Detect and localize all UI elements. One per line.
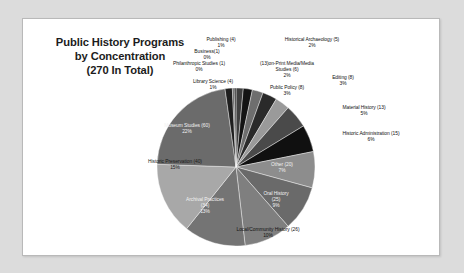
label-historic-administration-pct: 6% bbox=[319, 137, 423, 143]
label-philanthropic-studies: Philanthropic Studies (1) 0% bbox=[151, 61, 247, 73]
label-museum-studies: Museum Studies (60) 22% bbox=[145, 123, 229, 135]
label-editing: Editing (8) 3% bbox=[319, 75, 367, 87]
label-oral-history: Oral History (25) 9% bbox=[252, 191, 300, 210]
label-archival-practices-pct: 13% bbox=[174, 209, 236, 215]
label-historical-archaeology-pct: 2% bbox=[259, 43, 365, 49]
chart-title-line-1: Public History Programs bbox=[35, 35, 205, 49]
label-historic-administration-name: Historic Administration (15) bbox=[342, 131, 399, 136]
label-public-policy: Public Policy (8) 3% bbox=[251, 85, 323, 97]
label-material-history: Material History (13) 5% bbox=[323, 105, 405, 117]
page-canvas: Public History Programs by Concentration… bbox=[0, 0, 464, 273]
label-other: Other (20) 7% bbox=[259, 162, 305, 174]
label-historic-administration: Historic Administration (15) 6% bbox=[319, 131, 423, 143]
chart-frame: Public History Programs by Concentration… bbox=[22, 18, 440, 256]
label-historic-preservation: Historic Preservation (40) 15% bbox=[127, 159, 223, 171]
label-other-pct: 7% bbox=[259, 168, 305, 174]
label-publishing-name: Publishing (4) bbox=[206, 37, 235, 42]
label-philanthropic-studies-pct: 0% bbox=[151, 67, 247, 73]
label-museum-studies-pct: 22% bbox=[145, 129, 229, 135]
label-publishing: Publishing (4) 1% bbox=[185, 37, 257, 49]
label-public-policy-pct: 3% bbox=[251, 91, 323, 97]
label-business: Business(1) 0% bbox=[171, 49, 243, 61]
label-other-name: Other (20) bbox=[271, 162, 293, 167]
label-oral-history-pct: 9% bbox=[252, 203, 300, 209]
label-historical-archaeology: Historical Archaeology (5) 2% bbox=[259, 37, 365, 49]
label-museum-studies-name: Museum Studies (60) bbox=[164, 123, 210, 128]
label-historic-preservation-name: Historic Preservation (40) bbox=[148, 159, 202, 164]
label-material-history-pct: 5% bbox=[323, 111, 405, 117]
label-library-science-name: Library Science (4) bbox=[193, 79, 233, 84]
label-editing-name: Editing (8) bbox=[332, 75, 354, 80]
label-historic-preservation-pct: 15% bbox=[127, 165, 223, 171]
label-archival-practices: Archival Practices (34) 13% bbox=[174, 197, 236, 216]
label-oral-history-name: Oral History bbox=[263, 191, 288, 196]
label-library-science: Library Science (4) 1% bbox=[175, 79, 251, 91]
label-business-name: Business(1) bbox=[194, 49, 219, 54]
label-historical-archaeology-name: Historical Archaeology (5) bbox=[285, 37, 339, 42]
label-local-community-history-name: Local/Community History (26) bbox=[236, 227, 299, 232]
label-local-community-history-pct: 10% bbox=[201, 233, 335, 239]
label-public-policy-name: Public Policy (8) bbox=[270, 85, 304, 90]
label-editing-pct: 3% bbox=[319, 81, 367, 87]
label-library-science-pct: 1% bbox=[175, 85, 251, 91]
label-archival-practices-name: Archival Practices bbox=[186, 197, 224, 202]
label-local-community-history: Local/Community History (26) 10% bbox=[201, 227, 335, 239]
label-philanthropic-studies-name: Philanthropic Studies (1) bbox=[173, 61, 225, 66]
label-material-history-name: Material History (13) bbox=[343, 105, 386, 110]
label-nonprint-media-studies-name: (13)on-Print Media/Media bbox=[260, 61, 314, 66]
